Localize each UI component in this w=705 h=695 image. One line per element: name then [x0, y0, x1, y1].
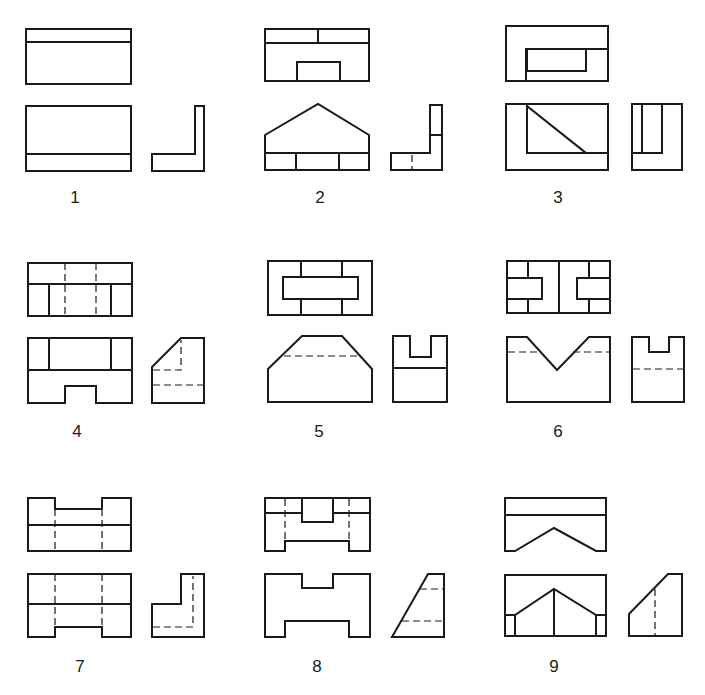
figure-8-number: 8: [312, 657, 321, 676]
figure-9-number: 9: [549, 657, 558, 676]
figure-1-top-view: [26, 29, 131, 84]
figure-5-number: 5: [314, 422, 323, 441]
figure-7: 7: [28, 498, 204, 676]
figure-2: 2: [265, 29, 442, 207]
figure-9: 9: [505, 498, 682, 676]
figure-3-side-view: [632, 104, 682, 170]
figure-8-front-view: [265, 574, 370, 637]
figure-6: 6: [507, 261, 684, 441]
figure-3-front-view: [506, 104, 608, 170]
figure-9-side-view: [629, 574, 682, 636]
figure-2-top-view: [265, 29, 369, 81]
figure-5-top-view: [268, 261, 372, 315]
figure-5-front-view: [268, 336, 372, 402]
figure-2-front-view: [265, 104, 369, 170]
figure-5-side-view: [393, 336, 447, 402]
figure-6-number: 6: [553, 422, 562, 441]
figure-4: 4: [28, 263, 204, 441]
figure-6-side-view: [632, 337, 684, 402]
figure-9-top-view: [505, 498, 606, 551]
figure-3: 3: [506, 26, 682, 207]
figure-1-front-view: [26, 106, 131, 171]
figure-3-number: 3: [553, 188, 562, 207]
figure-8: 8: [265, 498, 444, 676]
figure-8-side-view: [392, 574, 444, 637]
figure-6-front-view: [507, 337, 610, 402]
figure-7-front-view: [28, 574, 131, 637]
figure-5: 5: [268, 261, 447, 441]
figure-4-top-view: [28, 263, 132, 316]
figure-1: 1: [26, 29, 204, 207]
figure-7-number: 7: [75, 657, 84, 676]
figure-6-top-view: [507, 261, 610, 313]
figure-1-side-view: [152, 106, 204, 171]
figure-2-number: 2: [315, 188, 324, 207]
figure-9-front-view: [505, 575, 606, 636]
figure-4-number: 4: [72, 422, 81, 441]
figure-4-front-view: [28, 338, 132, 403]
figure-8-top-view: [265, 498, 370, 551]
drawing-sheet: 1 2: [0, 0, 705, 695]
figure-3-top-view: [506, 26, 608, 81]
figure-7-top-view: [28, 498, 131, 551]
figure-4-side-view: [152, 338, 204, 403]
figure-1-number: 1: [70, 188, 79, 207]
figure-7-side-view: [152, 574, 204, 637]
figure-2-side-view: [391, 105, 442, 170]
